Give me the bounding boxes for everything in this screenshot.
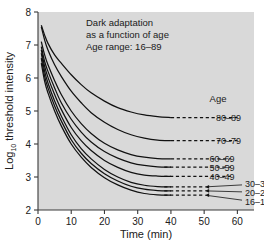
legend-header: Age — [210, 93, 227, 104]
title-line-1: Dark adaptation — [86, 17, 153, 28]
svg-text:Log10 threshold intensity: Log10 threshold intensity — [3, 52, 17, 170]
x-tick-label: 0 — [35, 216, 41, 227]
y-tick-label: 6 — [25, 73, 31, 84]
x-tick-label: 40 — [165, 216, 177, 227]
y-tick-label: 2 — [25, 205, 31, 216]
x-axis-label: Time (min) — [120, 228, 172, 240]
y-tick-label: 7 — [25, 40, 31, 51]
x-tick-label: 50 — [199, 216, 211, 227]
x-tick-label: 60 — [232, 216, 244, 227]
title-line-2: as a function of age — [86, 29, 169, 40]
legend-label-70–79: 70–79 — [216, 136, 241, 146]
legend-label-40–49: 40–49 — [209, 172, 234, 182]
title-line-3: Age range: 16–89 — [86, 41, 162, 52]
y-tick-label: 4 — [25, 139, 31, 150]
y-tick-label: 5 — [25, 106, 31, 117]
legend-label-80–89: 80–89 — [216, 113, 241, 123]
y-tick-label: 8 — [25, 7, 31, 18]
y-tick-label: 3 — [25, 172, 31, 183]
x-tick-label: 30 — [132, 216, 144, 227]
y-axis-label-base: Log — [3, 152, 15, 170]
y-axis-label-rest: threshold intensity — [3, 52, 15, 144]
x-tick-label: 10 — [66, 216, 78, 227]
x-tick-label: 20 — [99, 216, 111, 227]
dark-adaptation-chart: 2345678010203040506080–8970–7960–6950–59… — [0, 0, 264, 242]
legend-label-16–19: 16–19 — [245, 197, 264, 207]
chart-svg: 2345678010203040506080–8970–7960–6950–59… — [0, 0, 264, 242]
y-axis-label-group: Log10 threshold intensity — [3, 52, 17, 170]
y-axis-label-subscript: 10 — [10, 144, 17, 152]
